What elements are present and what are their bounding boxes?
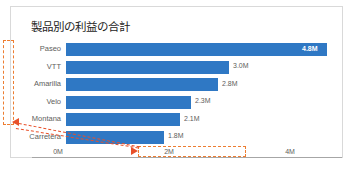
plot-area[interactable]: Paseo 4.8M VTT 3.0M Amarilla 2.8M Velo 2…: [66, 41, 338, 146]
value-label: 2.3M: [195, 97, 211, 104]
x-axis-line: [32, 157, 342, 158]
bar[interactable]: [66, 96, 191, 109]
bar-row[interactable]: Amarilla 2.8M: [66, 76, 338, 94]
category-label: Paseo: [40, 44, 61, 53]
chart-screenshot: 製品別の利益の合計 Paseo 4.8M VTT 3.0M Amarilla 2…: [0, 0, 353, 170]
bar[interactable]: [66, 61, 229, 74]
bar[interactable]: [66, 78, 218, 91]
x-axis-tick-label: 2M: [164, 148, 174, 155]
bar[interactable]: [66, 43, 327, 56]
value-label: 2.8M: [222, 80, 238, 87]
chart-card[interactable]: 製品別の利益の合計 Paseo 4.8M VTT 3.0M Amarilla 2…: [10, 6, 343, 158]
x-axis-tick-label: 0M: [53, 148, 63, 155]
category-label: Montana: [32, 114, 61, 123]
category-label: Velo: [46, 97, 61, 106]
bar[interactable]: [66, 131, 164, 144]
category-label: Amarilla: [34, 79, 61, 88]
bar-row[interactable]: Velo 2.3M: [66, 94, 338, 112]
value-label: 3.0M: [233, 62, 249, 69]
category-label: Carretera: [29, 132, 61, 141]
value-label: 4.8M: [302, 45, 318, 52]
category-label: VTT: [47, 62, 61, 71]
value-label: 2.1M: [184, 115, 200, 122]
value-label: 1.8M: [168, 132, 184, 139]
bar[interactable]: [66, 113, 180, 126]
bar-row[interactable]: Carretera 1.8M: [66, 129, 338, 147]
bar-row[interactable]: Montana 2.1M: [66, 111, 338, 129]
chart-title: 製品別の利益の合計: [31, 18, 130, 34]
bar-row[interactable]: Paseo 4.8M: [66, 41, 338, 59]
bar-row[interactable]: VTT 3.0M: [66, 59, 338, 77]
x-axis-tick-label: 4M: [285, 148, 295, 155]
